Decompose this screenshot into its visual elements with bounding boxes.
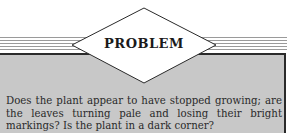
problem-description: Does the plant appear to have stopped gr… — [6, 95, 282, 133]
problem-heading: PROBLEM — [72, 36, 216, 51]
